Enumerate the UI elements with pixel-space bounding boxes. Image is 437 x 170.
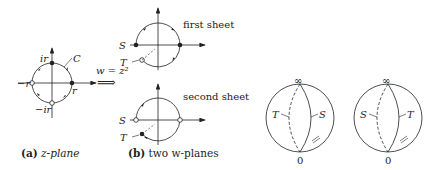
- t-leader: [281, 114, 289, 117]
- label-t: T: [407, 109, 415, 120]
- riemann-sphere-1: ∞ 0 T S: [266, 75, 334, 166]
- point-s: [134, 118, 139, 123]
- point-ir: [50, 61, 55, 66]
- point-minus-r: [30, 81, 35, 86]
- label-minus-r: −r: [17, 78, 31, 89]
- arrow-mark-icon: [141, 103, 144, 107]
- z-plane: C ir r −r −ir: [17, 48, 96, 118]
- first-sheet-title: first sheet: [183, 19, 234, 30]
- caption-b: (b) two w-planes: [128, 147, 219, 159]
- arrow-mark-icon: [172, 28, 176, 31]
- w-plane-second-sheet: S T second sheet: [119, 84, 249, 145]
- label-minus-ir: −ir: [35, 104, 53, 115]
- point-r2: [178, 43, 183, 48]
- label-s: S: [119, 115, 126, 126]
- label-infinity: ∞: [382, 75, 390, 86]
- label-s: S: [119, 40, 126, 51]
- label-ir: ir: [40, 53, 49, 64]
- riemann-sphere-2: ∞ 0 S T: [354, 75, 422, 166]
- c-leader: [64, 58, 72, 67]
- t-leader: [399, 114, 406, 117]
- caption-a: (a) z-plane: [21, 147, 79, 159]
- point-r2: [178, 118, 183, 123]
- s-leader: [311, 114, 318, 117]
- arrow-mark-icon: [37, 93, 40, 96]
- lower-arc: [142, 120, 180, 141]
- label-s: S: [360, 109, 367, 120]
- seam-mark: [401, 138, 408, 143]
- arrow-mark-icon: [144, 137, 148, 139]
- seam-mark: [313, 138, 320, 143]
- w-plane-first-sheet: S T first sheet: [119, 8, 234, 70]
- back-seam: [289, 84, 300, 152]
- t-leader: [132, 135, 139, 137]
- implies-arrow-icon: ⟹: [97, 75, 116, 90]
- lower-arc: [142, 45, 180, 67]
- front-seam: [300, 84, 311, 152]
- point-s: [134, 43, 139, 48]
- label-zero: 0: [385, 155, 391, 166]
- riemann-surface-diagram: C ir r −r −ir w = z² ⟹ S T first sheet: [0, 0, 437, 170]
- back-seam: [377, 84, 388, 152]
- label-infinity: ∞: [294, 75, 302, 86]
- t-leader: [132, 60, 139, 62]
- seam-mark: [400, 136, 407, 141]
- label-zero: 0: [297, 155, 303, 166]
- label-t: T: [120, 132, 128, 143]
- mapping-arrow: w = z² ⟹: [96, 65, 129, 90]
- s-leader: [369, 114, 377, 117]
- front-seam: [388, 84, 399, 152]
- label-t: T: [272, 109, 280, 120]
- label-r: r: [72, 85, 78, 96]
- seam-mark: [312, 136, 319, 141]
- second-sheet-title: second sheet: [183, 91, 249, 102]
- label-s: S: [319, 109, 326, 120]
- label-c: C: [73, 53, 81, 64]
- cut-line: [142, 124, 155, 134]
